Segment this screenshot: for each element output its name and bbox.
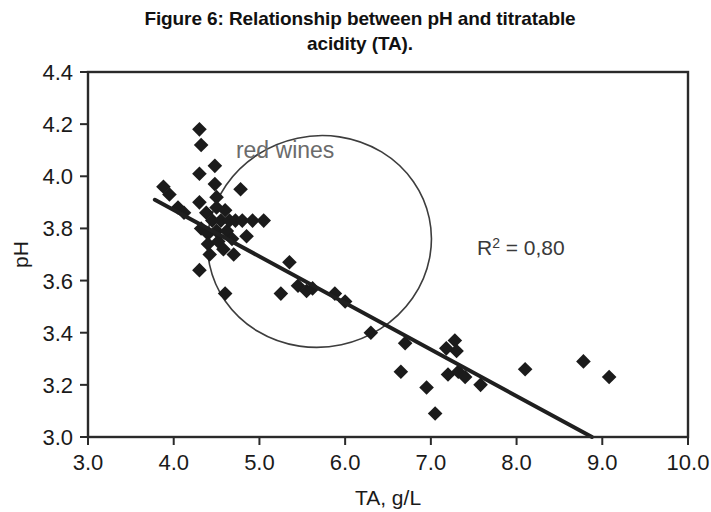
axis-tick-layer	[80, 72, 688, 445]
y-tick-label: 4.0	[42, 164, 73, 189]
x-axis-title: TA, g/L	[355, 486, 421, 509]
y-tick-label: 3.0	[42, 425, 73, 450]
x-tick-label: 6.0	[330, 450, 361, 475]
data-point-marker	[239, 229, 254, 244]
x-tick-label: 10.0	[667, 450, 710, 475]
data-point-marker	[202, 247, 217, 262]
data-point-marker	[428, 406, 443, 421]
data-point-marker	[282, 255, 297, 270]
data-point-marker	[256, 213, 271, 228]
cluster-label-annotation: red wines	[236, 137, 334, 163]
data-point-marker	[394, 365, 409, 380]
y-tick-label: 4.2	[42, 112, 73, 137]
plot-frame	[88, 72, 688, 437]
data-point-marker	[192, 263, 207, 278]
data-point-marker	[192, 166, 207, 181]
annotation-layer: R2 = 0,80red wines	[236, 137, 565, 258]
x-tick-label: 4.0	[158, 450, 189, 475]
data-point-marker	[364, 325, 379, 340]
y-tick-label: 3.4	[42, 321, 73, 346]
data-point-marker	[233, 182, 248, 197]
data-point-marker	[194, 138, 209, 153]
figure-container: Figure 6: Relationship between pH and ti…	[0, 0, 711, 512]
y-tick-label: 3.6	[42, 269, 73, 294]
r-squared-annotation: R2 = 0,80	[477, 235, 565, 259]
y-tick-label: 3.2	[42, 373, 73, 398]
data-point-marker	[419, 380, 434, 395]
data-point-marker	[449, 344, 464, 359]
data-point-marker	[576, 354, 591, 369]
data-point-marker	[518, 362, 533, 377]
data-point-marker	[274, 286, 289, 301]
data-point-marker	[441, 367, 456, 382]
y-tick-label: 3.8	[42, 216, 73, 241]
x-tick-label: 7.0	[416, 450, 447, 475]
axis-label-layer: 3.03.23.43.63.84.04.24.43.04.05.06.07.08…	[9, 60, 709, 509]
data-point-marker	[602, 370, 617, 385]
data-point-marker	[208, 159, 223, 174]
x-tick-label: 5.0	[244, 450, 275, 475]
y-tick-label: 4.4	[42, 60, 73, 85]
data-point-marker	[192, 122, 207, 137]
scatter-plot: 3.03.23.43.63.84.04.24.43.04.05.06.07.08…	[0, 0, 711, 512]
data-point-layer	[156, 122, 616, 421]
data-point-marker	[208, 177, 223, 192]
x-tick-label: 9.0	[587, 450, 618, 475]
x-tick-label: 8.0	[501, 450, 532, 475]
x-tick-label: 3.0	[73, 450, 104, 475]
data-point-marker	[218, 286, 233, 301]
y-axis-title: pH	[9, 241, 32, 268]
